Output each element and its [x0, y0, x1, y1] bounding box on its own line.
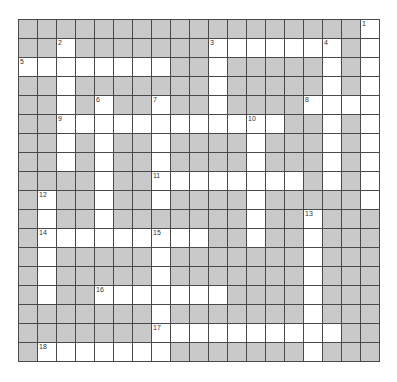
answer-cell[interactable] [323, 134, 342, 153]
answer-cell[interactable] [209, 77, 228, 96]
answer-cell[interactable]: 9 [57, 115, 76, 134]
answer-cell[interactable] [133, 115, 152, 134]
answer-cell[interactable] [361, 96, 380, 115]
answer-cell[interactable] [57, 153, 76, 172]
answer-cell[interactable] [38, 267, 57, 286]
answer-cell[interactable]: 11 [152, 172, 171, 191]
answer-cell[interactable] [266, 172, 285, 191]
answer-cell[interactable] [190, 229, 209, 248]
answer-cell[interactable] [247, 210, 266, 229]
answer-cell[interactable] [361, 77, 380, 96]
answer-cell[interactable] [209, 172, 228, 191]
answer-cell[interactable] [209, 58, 228, 77]
answer-cell[interactable] [57, 343, 76, 362]
answer-cell[interactable] [247, 39, 266, 58]
answer-cell[interactable] [114, 286, 133, 305]
answer-cell[interactable] [323, 324, 342, 343]
answer-cell[interactable] [152, 286, 171, 305]
answer-cell[interactable] [95, 210, 114, 229]
answer-cell[interactable] [266, 39, 285, 58]
answer-cell[interactable]: 8 [304, 96, 323, 115]
answer-cell[interactable] [152, 248, 171, 267]
answer-cell[interactable] [76, 229, 95, 248]
answer-cell[interactable] [209, 96, 228, 115]
answer-cell[interactable]: 6 [95, 96, 114, 115]
answer-cell[interactable] [323, 153, 342, 172]
answer-cell[interactable] [209, 286, 228, 305]
answer-cell[interactable] [323, 172, 342, 191]
answer-cell[interactable] [304, 39, 323, 58]
answer-cell[interactable] [304, 229, 323, 248]
answer-cell[interactable]: 2 [57, 39, 76, 58]
answer-cell[interactable] [304, 267, 323, 286]
answer-cell[interactable] [38, 58, 57, 77]
answer-cell[interactable] [95, 153, 114, 172]
answer-cell[interactable] [152, 191, 171, 210]
answer-cell[interactable] [285, 324, 304, 343]
answer-cell[interactable] [285, 39, 304, 58]
answer-cell[interactable] [57, 58, 76, 77]
answer-cell[interactable] [133, 58, 152, 77]
answer-cell[interactable] [247, 134, 266, 153]
answer-cell[interactable]: 7 [152, 96, 171, 115]
answer-cell[interactable] [133, 286, 152, 305]
answer-cell[interactable] [38, 248, 57, 267]
answer-cell[interactable]: 10 [247, 115, 266, 134]
answer-cell[interactable] [247, 153, 266, 172]
answer-cell[interactable]: 1 [361, 20, 380, 39]
answer-cell[interactable] [114, 115, 133, 134]
answer-cell[interactable]: 16 [95, 286, 114, 305]
answer-cell[interactable] [361, 172, 380, 191]
answer-cell[interactable] [190, 286, 209, 305]
answer-cell[interactable] [190, 115, 209, 134]
answer-cell[interactable] [228, 39, 247, 58]
answer-cell[interactable] [228, 115, 247, 134]
answer-cell[interactable] [209, 115, 228, 134]
answer-cell[interactable] [152, 267, 171, 286]
answer-cell[interactable] [266, 115, 285, 134]
answer-cell[interactable] [361, 39, 380, 58]
answer-cell[interactable]: 5 [19, 58, 38, 77]
answer-cell[interactable] [171, 286, 190, 305]
answer-cell[interactable] [190, 172, 209, 191]
answer-cell[interactable] [57, 77, 76, 96]
answer-cell[interactable] [361, 153, 380, 172]
answer-cell[interactable]: 14 [38, 229, 57, 248]
answer-cell[interactable] [171, 172, 190, 191]
answer-cell[interactable] [304, 324, 323, 343]
answer-cell[interactable] [57, 229, 76, 248]
answer-cell[interactable] [152, 343, 171, 362]
answer-cell[interactable] [57, 134, 76, 153]
answer-cell[interactable]: 18 [38, 343, 57, 362]
answer-cell[interactable] [323, 58, 342, 77]
answer-cell[interactable] [152, 305, 171, 324]
answer-cell[interactable] [152, 134, 171, 153]
answer-cell[interactable] [95, 229, 114, 248]
answer-cell[interactable] [361, 58, 380, 77]
answer-cell[interactable]: 12 [38, 191, 57, 210]
answer-cell[interactable]: 4 [323, 39, 342, 58]
answer-cell[interactable] [266, 324, 285, 343]
answer-cell[interactable] [304, 305, 323, 324]
answer-cell[interactable] [95, 343, 114, 362]
answer-cell[interactable] [114, 343, 133, 362]
answer-cell[interactable] [114, 229, 133, 248]
answer-cell[interactable] [361, 134, 380, 153]
answer-cell[interactable] [95, 191, 114, 210]
answer-cell[interactable]: 15 [152, 229, 171, 248]
answer-cell[interactable] [95, 172, 114, 191]
answer-cell[interactable] [76, 343, 95, 362]
answer-cell[interactable] [190, 324, 209, 343]
answer-cell[interactable] [304, 343, 323, 362]
answer-cell[interactable] [361, 115, 380, 134]
answer-cell[interactable] [323, 115, 342, 134]
answer-cell[interactable] [247, 229, 266, 248]
answer-cell[interactable] [171, 324, 190, 343]
answer-cell[interactable]: 3 [209, 39, 228, 58]
answer-cell[interactable] [323, 77, 342, 96]
answer-cell[interactable] [38, 210, 57, 229]
answer-cell[interactable] [247, 324, 266, 343]
answer-cell[interactable] [228, 172, 247, 191]
answer-cell[interactable] [323, 96, 342, 115]
answer-cell[interactable] [114, 58, 133, 77]
